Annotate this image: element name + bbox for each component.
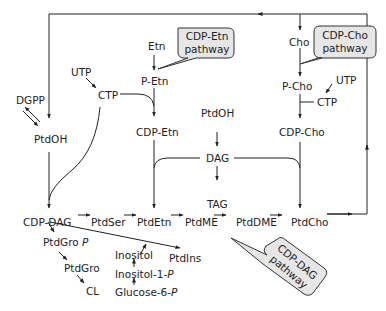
phospholipid-pathway-diagram: CDP-Etn pathway CDP-Cho pathway CDP-DAG … [0, 0, 386, 311]
node-ptdcho: PtdCho [291, 216, 329, 228]
callout-cdp-cho-pathway: CDP-Cho pathway [315, 29, 375, 55]
callout-cdp-etn-line2: pathway [180, 43, 234, 56]
node-utp-left: UTP [71, 66, 91, 78]
node-ptdetn: PtdEtn [137, 216, 172, 228]
callout-cdp-cho-line1: CDP-Cho [315, 29, 375, 42]
node-cdp-cho: CDP-Cho [279, 126, 325, 138]
node-inositol-1-p: Inositol-1-P [115, 268, 174, 280]
node-cho: Cho [289, 36, 309, 48]
node-glucose-6-p-suffix: P [171, 286, 177, 298]
callout-cdp-etn-line1: CDP-Etn [180, 30, 234, 43]
node-inositol-1-p-suffix: P [167, 268, 173, 280]
node-ptdins: PtdIns [169, 252, 201, 264]
node-glucose-6-p: Glucose-6-P [115, 286, 177, 298]
node-ctp-right: CTP [317, 96, 337, 108]
node-cl: CL [86, 285, 99, 297]
node-cdp-etn: CDP-Etn [136, 126, 179, 138]
node-glucose-6-p-main: Glucose-6- [115, 286, 171, 298]
node-dgpp: DGPP [16, 94, 45, 106]
callout-cdp-etn-pathway: CDP-Etn pathway [180, 30, 234, 56]
node-ptddme: PtdDME [236, 216, 277, 228]
node-ctp-left: CTP [98, 89, 118, 101]
node-ptdgro: PtdGro [64, 262, 100, 274]
node-dag: DAG [206, 152, 229, 164]
node-ptdoh-left: PtdOH [34, 133, 67, 145]
node-ptdgro-p: PtdGro P [43, 236, 88, 248]
node-etn: Etn [148, 40, 165, 52]
node-ptdoh-center: PtdOH [201, 107, 234, 119]
node-ptdgro-p-suffix: P [82, 236, 88, 248]
node-ptdser: PtdSer [91, 216, 126, 228]
node-utp-right: UTP [336, 74, 356, 86]
node-cdp-dag: CDP-DAG [23, 216, 71, 228]
node-inositol: Inositol [115, 249, 153, 261]
node-inositol-1-p-main: Inositol-1- [115, 268, 167, 280]
node-p-etn: P-Etn [141, 75, 168, 87]
node-ptdme: PtdME [185, 216, 218, 228]
node-tag: TAG [207, 198, 228, 210]
node-ptdgro-p-main: PtdGro [43, 236, 79, 248]
callout-cdp-cho-line2: pathway [315, 42, 375, 55]
node-p-cho: P-Cho [282, 80, 312, 92]
